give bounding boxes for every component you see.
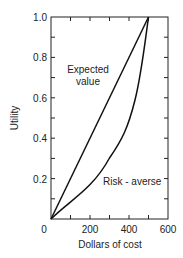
annotation-expected-value-2: value — [76, 76, 100, 87]
annotation-expected-value-1: Expected — [67, 64, 109, 75]
y-ticks — [51, 37, 168, 199]
expected-value-line — [51, 17, 149, 219]
x-axis-label: Dollars of cost — [78, 239, 142, 250]
annotation-risk-averse: Risk - averse — [103, 176, 162, 187]
y-tick-0-6: 0.6 — [33, 93, 47, 104]
plot-frame — [51, 17, 168, 219]
x-tick-200: 200 — [82, 224, 99, 235]
x-tick-0: 0 — [41, 224, 47, 235]
x-tick-600: 600 — [160, 224, 177, 235]
utility-chart: 1.0 0.8 0.6 0.4 0.2 0 200 400 600 Dollar… — [0, 0, 183, 258]
y-tick-0-2: 0.2 — [33, 174, 47, 185]
y-axis-label: Utility — [9, 106, 20, 130]
y-tick-1-0: 1.0 — [33, 12, 47, 23]
x-ticks — [71, 17, 149, 219]
y-tick-0-8: 0.8 — [33, 52, 47, 63]
x-tick-400: 400 — [121, 224, 138, 235]
y-tick-0-4: 0.4 — [33, 133, 47, 144]
